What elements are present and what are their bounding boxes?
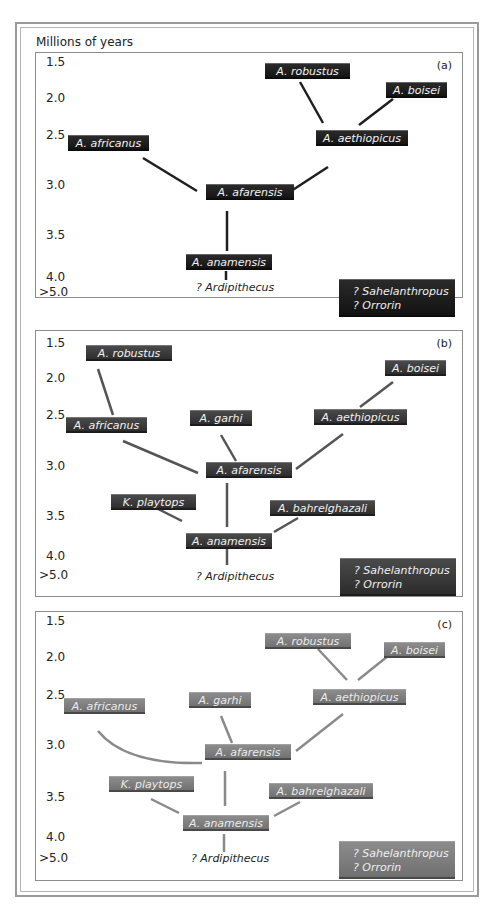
- panel-label: (a): [437, 59, 452, 72]
- y-tick: 1.5: [46, 336, 65, 350]
- edge-afarensis-aethiopicus: [288, 167, 328, 193]
- y-tick: 2.0: [46, 650, 65, 664]
- edge-afarensis-africanus: [143, 158, 197, 191]
- node-c-afarensis: A. afarensis: [205, 744, 291, 760]
- edge-aethiopicus-boisei: [360, 382, 393, 407]
- node-c-ardipithecus: ? Ardipithecus: [191, 852, 269, 865]
- node-b-bahrelghazali: A. bahrelghazali: [270, 500, 375, 516]
- uncertain-orrorin: ? Orrorin: [354, 578, 456, 592]
- y-tick: 3.5: [46, 509, 65, 523]
- node-b-africanus: A. africanus: [66, 417, 147, 433]
- y-tick: 2.0: [46, 371, 65, 385]
- panel-b: 1.5 2.0 2.5 3.0 3.5 4.0 >5.0 (b) A. robu…: [35, 330, 463, 597]
- edge-aethiopicus-robustus: [318, 649, 347, 680]
- node-a-aethiopicus: A. aethiopicus: [316, 130, 408, 146]
- node-b-platyops: K. playtops: [111, 494, 196, 510]
- y-tick: >5.0: [39, 285, 68, 299]
- edge-afarensis-garhi: [221, 435, 236, 461]
- edge-aethiopicus-robustus: [300, 82, 323, 123]
- y-tick: 3.5: [46, 790, 65, 804]
- edge-afarensis-aethiopicus: [296, 714, 343, 751]
- y-tick: 3.0: [46, 459, 65, 473]
- node-b-aethiopicus: A. aethiopicus: [314, 409, 407, 425]
- node-b-boisei: A. boisei: [385, 360, 446, 376]
- y-tick: 3.0: [46, 178, 65, 192]
- y-tick: 1.5: [46, 55, 65, 69]
- edge-anamensis-platyops: [151, 799, 179, 813]
- node-a-anamensis: A. anamensis: [186, 254, 272, 270]
- uncertain-ancestors-box: ? Sahelanthropus ? Orrorin: [339, 841, 455, 879]
- y-tick: 1.5: [46, 614, 65, 628]
- edge-anamensis-bahrelghazali: [274, 518, 298, 532]
- y-tick: 3.0: [46, 738, 65, 752]
- edge-aethiopicus-boisei: [359, 99, 393, 125]
- node-c-platyops: K. playtops: [109, 776, 194, 792]
- y-axis-label: Millions of years: [36, 35, 133, 49]
- node-a-afarensis: A. afarensis: [206, 184, 294, 200]
- uncertain-sahelanthropus: ? Sahelanthropus: [353, 847, 455, 861]
- node-c-bahrelghazali: A. bahrelghazali: [269, 783, 373, 799]
- y-tick: 4.0: [46, 830, 65, 844]
- panel-a: 1.5 2.0 2.5 3.0 3.5 4.0 >5.0 (a) A. robu…: [35, 52, 463, 298]
- node-b-garhi: A. garhi: [190, 410, 252, 426]
- node-a-ardipithecus: ? Ardipithecus: [196, 281, 274, 294]
- edge-anamensis-bahrelghazali: [274, 802, 300, 816]
- y-tick: 4.0: [46, 549, 65, 563]
- node-c-boisei: A. boisei: [384, 642, 445, 658]
- node-b-robustus: A. robustus: [86, 345, 172, 361]
- uncertain-sahelanthropus: ? Sahelanthropus: [354, 564, 456, 578]
- panel-label: (b): [436, 337, 452, 350]
- node-a-boisei: A. boisei: [386, 82, 447, 98]
- node-b-ardipithecus: ? Ardipithecus: [196, 570, 274, 583]
- uncertain-sahelanthropus: ? Sahelanthropus: [353, 285, 455, 299]
- uncertain-ancestors-box: ? Sahelanthropus ? Orrorin: [339, 279, 455, 317]
- y-tick: 2.5: [46, 688, 65, 702]
- y-tick: 2.5: [46, 408, 65, 422]
- node-a-africanus: A. africanus: [68, 135, 149, 151]
- node-c-garhi: A. garhi: [189, 692, 251, 708]
- uncertain-ancestors-box: ? Sahelanthropus ? Orrorin: [340, 558, 456, 596]
- node-a-robustus: A. robustus: [265, 63, 350, 79]
- y-tick: >5.0: [39, 568, 68, 582]
- edge-afarensis-garhi: [221, 716, 232, 743]
- y-tick: >5.0: [39, 851, 68, 865]
- node-c-aethiopicus: A. aethiopicus: [313, 689, 406, 705]
- node-c-robustus: A. robustus: [265, 633, 351, 649]
- node-c-anamensis: A. anamensis: [183, 815, 269, 831]
- y-tick: 3.5: [46, 228, 65, 242]
- y-tick: 2.5: [46, 128, 65, 142]
- panel-label: (c): [437, 618, 452, 631]
- node-b-anamensis: A. anamensis: [186, 533, 272, 549]
- edge-afarensis-aethiopicus: [296, 434, 343, 469]
- node-b-afarensis: A. afarensis: [206, 462, 292, 478]
- uncertain-orrorin: ? Orrorin: [353, 861, 455, 875]
- edge-afarensis-africanus: [123, 441, 198, 473]
- uncertain-orrorin: ? Orrorin: [353, 299, 455, 313]
- y-tick: 2.0: [46, 91, 65, 105]
- y-tick: 4.0: [46, 270, 65, 284]
- panel-c: 1.5 2.0 2.5 3.0 3.5 4.0 >5.0 (c) A. robu…: [35, 611, 463, 881]
- edge-aethiopicus-boisei: [358, 656, 388, 680]
- node-c-africanus: A. africanus: [64, 698, 145, 714]
- edge-afarensis-africanus: [98, 731, 202, 763]
- edge-africanus-robustus: [98, 369, 113, 415]
